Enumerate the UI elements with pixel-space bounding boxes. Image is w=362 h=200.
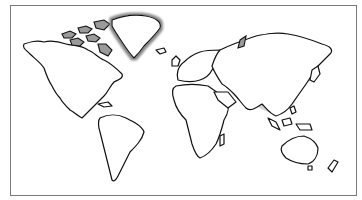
iceland: [156, 48, 166, 54]
australia: [281, 136, 318, 164]
new-zealand: [328, 160, 338, 172]
madagascar: [220, 134, 224, 146]
world-map: [0, 0, 362, 200]
british-isles: [172, 56, 180, 66]
greenland: [112, 15, 160, 58]
tasmania: [308, 166, 312, 170]
south-america: [99, 115, 145, 181]
caribbean: [98, 102, 112, 107]
